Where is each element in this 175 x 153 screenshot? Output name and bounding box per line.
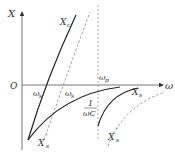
- label-xs-prime-left: X ' s: [37, 132, 49, 149]
- svg-text:s: s: [116, 136, 119, 143]
- svg-text:s: s: [71, 92, 74, 99]
- svg-text:s: s: [39, 92, 42, 99]
- origin-label: O: [10, 81, 18, 91]
- svg-text:': ': [46, 132, 48, 139]
- svg-text:X: X: [37, 138, 45, 148]
- svg-text:ωC: ωC: [83, 109, 96, 118]
- label-xs-prime-right: X ' s: [107, 126, 119, 143]
- svg-text:X: X: [59, 17, 67, 27]
- label-xs: X s: [131, 87, 142, 98]
- svg-text:1: 1: [88, 99, 93, 108]
- label-xc: X c: [59, 17, 71, 28]
- svg-text:s: s: [139, 91, 142, 98]
- label-omega-p: ω p: [99, 73, 109, 84]
- svg-text:p: p: [105, 76, 109, 84]
- reactance-frequency-diagram: X ω O X c ω s ω s ω p 1 ωC X s X ' s: [0, 0, 175, 153]
- label-omega-s-prime: ω s: [65, 89, 74, 99]
- svg-text:s: s: [46, 142, 49, 149]
- curve-xc-prime: [44, 12, 90, 140]
- label-omega-s: ω s: [33, 89, 42, 99]
- label-one-over-omega-c: 1 ωC: [83, 99, 97, 118]
- svg-text:': ': [116, 126, 118, 133]
- x-axis-label: ω: [165, 80, 173, 91]
- svg-text:X: X: [131, 87, 139, 97]
- curve-xc: [28, 15, 76, 140]
- svg-text:X: X: [107, 132, 115, 142]
- y-axis-label: X: [7, 8, 16, 19]
